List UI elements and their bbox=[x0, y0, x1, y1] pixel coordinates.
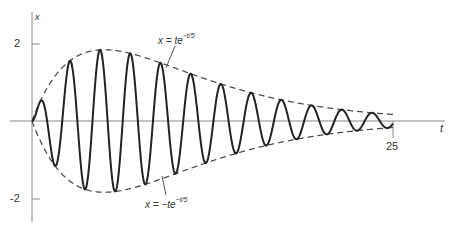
upper-envelope-label: x = te−t/5 bbox=[158, 32, 195, 46]
x-tick-label-25: 25 bbox=[386, 140, 398, 152]
y-tick-label-2: 2 bbox=[14, 37, 20, 49]
y-axis-label: x bbox=[35, 12, 40, 22]
upper-label-leader bbox=[166, 46, 175, 68]
x-axis-label: t bbox=[440, 122, 443, 134]
lower-envelope-label: x = −te−t/5 bbox=[145, 196, 187, 210]
y-tick-label-neg2: -2 bbox=[10, 192, 20, 204]
chart-plot bbox=[0, 0, 454, 227]
lower-label-leader bbox=[162, 176, 166, 195]
